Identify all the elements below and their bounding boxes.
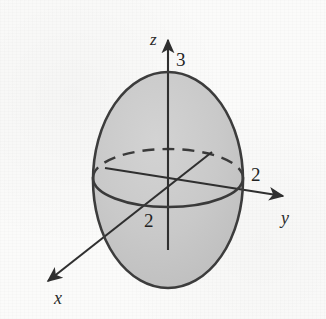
ellipsoid-drawing bbox=[0, 0, 326, 319]
x-intercept-label: 2 bbox=[144, 211, 154, 230]
z-axis-label: z bbox=[150, 31, 157, 48]
y-intercept-label: 2 bbox=[251, 165, 261, 184]
ellipsoid-figure: z 3 y 2 x 2 bbox=[0, 0, 326, 319]
x-axis-label: x bbox=[54, 289, 62, 307]
z-intercept-label: 3 bbox=[176, 50, 186, 69]
y-axis-label: y bbox=[281, 209, 289, 227]
